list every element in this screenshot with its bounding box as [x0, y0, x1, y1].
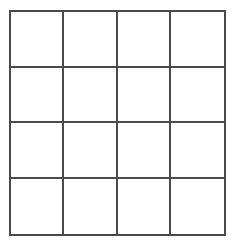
grid-cell-r3-c3: [118, 123, 171, 179]
grid-cell-r1-c2: [64, 12, 117, 68]
grid-cell-r3-c4: [171, 123, 224, 179]
grid-cell-r1-c3: [118, 12, 171, 68]
grid-cell-r4-c4: [171, 179, 224, 235]
grid-cell-r4-c3: [118, 179, 171, 235]
grid-cell-r4-c2: [64, 179, 117, 235]
grid-cell-r2-c3: [118, 68, 171, 124]
grid-cell-r2-c4: [171, 68, 224, 124]
grid-4x4: [9, 10, 226, 236]
grid-cell-r1-c1: [11, 12, 64, 68]
canvas: [0, 0, 238, 243]
grid-cell-r3-c2: [64, 123, 117, 179]
grid-cell-r2-c2: [64, 68, 117, 124]
grid-cell-r3-c1: [11, 123, 64, 179]
grid-cell-r4-c1: [11, 179, 64, 235]
grid-cell-r2-c1: [11, 68, 64, 124]
grid-cell-r1-c4: [171, 12, 224, 68]
